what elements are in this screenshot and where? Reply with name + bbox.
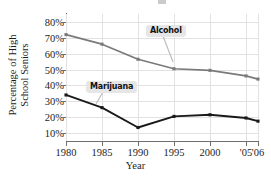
y-axis-tick-mark [61,85,66,86]
data-point-marker [136,126,139,129]
x-axis-tick-label: 1985 [92,147,113,158]
x-axis-tick-label: 1990 [128,147,149,158]
data-point-marker [100,106,103,109]
series-line-marijuana [66,95,258,128]
y-axis-tick-mark [61,22,66,23]
data-point-marker [208,113,211,116]
x-axis-tick-label: 2000 [200,147,221,158]
data-point-marker [64,33,67,36]
x-axis-tick-label: 1995 [164,147,185,158]
y-axis-tick-mark [61,54,66,55]
series-label-marijuana: Marijuana [86,81,137,93]
data-point-marker [256,78,259,81]
x-axis-tick-label: '06 [252,147,264,158]
x-axis-tick-mark [210,141,211,146]
x-axis-tick-mark [258,141,259,146]
data-point-marker [208,69,211,72]
x-axis-tick-mark [246,141,247,146]
x-axis-tick-mark [138,141,139,146]
data-point-marker [100,43,103,46]
data-point-marker [256,120,259,123]
y-axis-tick-mark [61,117,66,118]
x-axis-title: Year [0,160,271,171]
data-point-marker [64,93,67,96]
x-axis-tick-mark [174,141,175,146]
x-axis-tick-mark [102,141,103,146]
callout-pointer-marijuana [96,92,103,104]
series-line-alcohol [66,35,258,79]
data-point-marker [136,58,139,61]
data-point-marker [172,67,175,70]
x-axis-tick-label: '05 [240,147,252,158]
x-axis-tick-mark [66,141,67,146]
y-axis-tick-mark [61,133,66,134]
series-label-alcohol: Alcohol [146,25,186,37]
y-axis-tick-mark [61,38,66,39]
y-axis-tick-mark [61,101,66,102]
y-axis-tick-mark [61,70,66,71]
line-chart: Percentage of High School Seniors 80%70%… [0,0,271,177]
callout-pointer-alcohol [163,36,173,62]
data-point-marker [172,115,175,118]
data-point-marker [244,116,247,119]
x-axis-tick-label: 1980 [56,147,77,158]
data-point-marker [244,74,247,77]
